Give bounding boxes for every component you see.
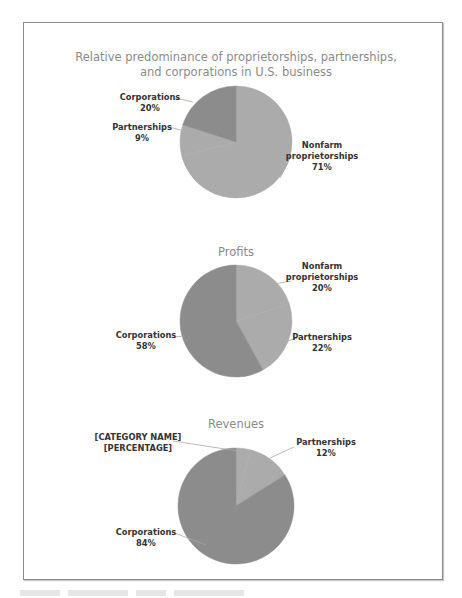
label-corporations: Corporations xyxy=(116,330,177,340)
label-nonfarm-pct: 71% xyxy=(312,162,333,172)
label-partnerships: Partnerships xyxy=(296,437,356,447)
label-category-placeholder: [CATEGORY NAME] xyxy=(95,432,182,442)
label-nonfarm-2: proprietorships xyxy=(286,272,359,282)
leader-line xyxy=(173,441,238,451)
pie xyxy=(180,86,292,198)
label-corporations-pct: 84% xyxy=(136,538,157,548)
chart-title-line2: and corporations in U.S. business xyxy=(140,65,332,79)
label-partnerships-pct: 12% xyxy=(316,448,337,458)
pie-chart-revenues: Revenues [CATEGORY NAME] [PERCENTAGE] Pa… xyxy=(95,417,356,564)
label-nonfarm: Nonfarm xyxy=(302,261,343,271)
leader-line xyxy=(270,447,294,458)
charts-canvas: Relative predominance of proprietorships… xyxy=(0,0,462,598)
label-corporations-pct: 58% xyxy=(136,341,157,351)
pie xyxy=(180,265,292,377)
pie-chart-profits: Profits Nonfarm proprietorships 20% Part… xyxy=(116,245,359,377)
label-partnerships: Partnerships xyxy=(112,122,172,132)
label-nonfarm-2: proprietorships xyxy=(286,151,359,161)
label-corporations: Corporations xyxy=(120,92,181,102)
label-corporations: Corporations xyxy=(116,527,177,537)
pie xyxy=(178,448,294,564)
label-partnerships-pct: 22% xyxy=(312,343,333,353)
chart-title: Profits xyxy=(218,245,254,259)
label-nonfarm-pct: 20% xyxy=(312,283,333,293)
label-percentage-placeholder: [PERCENTAGE] xyxy=(104,443,173,453)
label-corporations-pct: 20% xyxy=(140,103,161,113)
label-partnerships-pct: 9% xyxy=(135,133,150,143)
label-nonfarm: Nonfarm xyxy=(302,140,343,150)
chart-title-line1: Relative predominance of proprietorships… xyxy=(75,50,397,64)
figure-caption-cutoff xyxy=(20,590,320,598)
chart-title: Revenues xyxy=(208,417,264,431)
label-partnerships: Partnerships xyxy=(292,332,352,342)
pie-chart-predominance: Relative predominance of proprietorships… xyxy=(75,50,397,198)
